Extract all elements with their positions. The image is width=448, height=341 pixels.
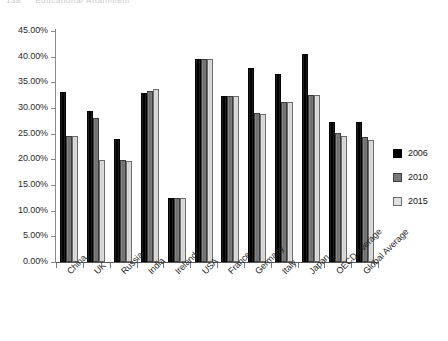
bar <box>314 95 320 262</box>
chart-legend: 200620102015 <box>393 141 448 213</box>
y-axis-tick-label: 15.00% <box>18 179 48 189</box>
legend-swatch-icon <box>393 173 402 182</box>
y-axis-tick-label: 0.00% <box>23 256 48 266</box>
bar <box>287 102 293 262</box>
y-axis-tick-label: 10.00% <box>18 205 48 215</box>
bar <box>341 136 347 262</box>
legend-item[interactable]: 2010 <box>393 165 448 189</box>
bar <box>180 198 186 262</box>
bar <box>233 96 239 262</box>
legend-item[interactable]: 2006 <box>393 141 448 165</box>
bar-group <box>83 31 110 262</box>
bar <box>99 160 105 262</box>
bar <box>153 89 159 262</box>
x-axis-tick-mark <box>110 263 111 268</box>
legend-item-label: 2006 <box>408 148 428 158</box>
bar-group <box>137 31 164 262</box>
y-axis-tick-label: 5.00% <box>23 230 48 240</box>
x-axis-tick-mark <box>56 263 57 268</box>
bar-group <box>298 31 325 262</box>
bar-group <box>217 31 244 262</box>
y-axis-tick-label: 45.00% <box>18 25 48 35</box>
legend-item-label: 2015 <box>408 196 428 206</box>
bar-group <box>56 31 83 262</box>
bar-group <box>190 31 217 262</box>
legend-swatch-icon <box>393 197 402 206</box>
chart-figure: 138Educational Attainment 0.00%5.00%10.0… <box>0 0 448 341</box>
bar <box>126 161 132 262</box>
page-number: 138 <box>6 0 21 5</box>
page-header-text: Educational Attainment <box>35 0 130 5</box>
legend-swatch-icon <box>393 149 402 158</box>
bar-group <box>244 31 271 262</box>
bar-group <box>324 31 351 262</box>
legend-item[interactable]: 2015 <box>393 189 448 213</box>
y-axis-tick-label: 40.00% <box>18 51 48 61</box>
y-axis-tick-label: 20.00% <box>18 153 48 163</box>
y-axis-tick-label: 30.00% <box>18 102 48 112</box>
bar <box>72 136 78 262</box>
bar <box>260 114 266 262</box>
bar-group <box>110 31 137 262</box>
bar <box>207 59 213 262</box>
y-axis-tick-label: 35.00% <box>18 76 48 86</box>
page-running-header: 138Educational Attainment <box>6 0 246 6</box>
bar-group <box>271 31 298 262</box>
y-axis-tick-label: 25.00% <box>18 128 48 138</box>
bar-group <box>163 31 190 262</box>
legend-item-label: 2010 <box>408 172 428 182</box>
plot-area <box>56 31 378 262</box>
